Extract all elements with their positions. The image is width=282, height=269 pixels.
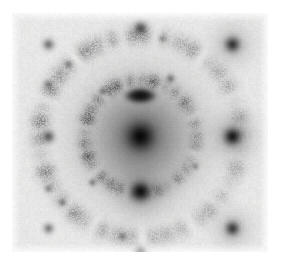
diffraction-pattern-canvas (12, 13, 268, 252)
diffraction-panel (12, 13, 268, 252)
diffraction-figure (0, 0, 282, 269)
